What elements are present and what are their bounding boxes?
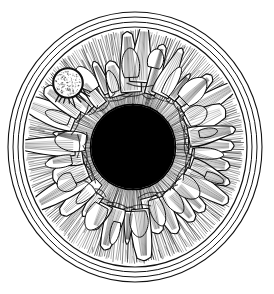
pupil: [91, 105, 175, 189]
iris-illustration: [0, 0, 274, 294]
illustration-canvas: [0, 0, 274, 294]
